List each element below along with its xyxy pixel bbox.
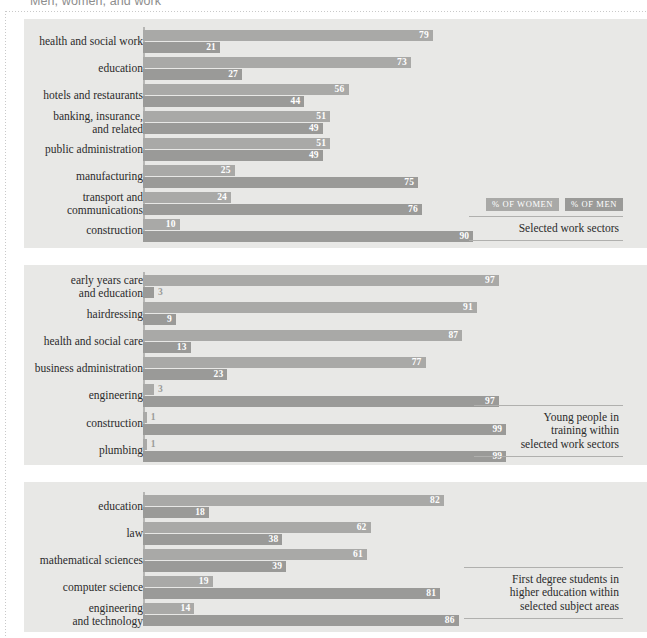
chart-category-label: transport and communications xyxy=(0,191,143,216)
chart-bar-men: 44 xyxy=(143,96,304,107)
chart-bar-value: 38 xyxy=(269,533,279,545)
chart-bar-value: 24 xyxy=(217,191,227,203)
chart-bar-women: 24 xyxy=(143,192,231,203)
chart-bar-women: 1 xyxy=(143,439,147,450)
chart-bar-men: 39 xyxy=(143,561,286,572)
chart-category-label: hairdressing xyxy=(0,308,143,321)
chart-bar-women: 10 xyxy=(143,219,180,230)
chart-category-label: education xyxy=(0,500,143,513)
chart-bar-value: 51 xyxy=(316,110,326,122)
chart-row: health and social work7921 xyxy=(24,30,647,53)
page-title: Men, women, and work xyxy=(30,0,161,8)
chart-category-label: health and social care xyxy=(0,335,143,348)
chart-bar-men: 86 xyxy=(143,615,459,626)
chart-bar-men: 3 xyxy=(143,287,154,298)
chart-bar-value: 61 xyxy=(353,548,363,560)
chart-bar-value: 44 xyxy=(291,95,301,107)
chart-bar-value: 62 xyxy=(357,521,367,533)
chart-bar-women: 62 xyxy=(143,522,371,533)
chart-bar-men: 99 xyxy=(143,424,506,435)
chart-plot-area-0: health and social work7921education7327h… xyxy=(24,19,647,248)
chart-bar-men: 18 xyxy=(143,507,209,518)
chart-bar-women: 1 xyxy=(143,412,147,423)
chart-bar-value: 91 xyxy=(463,301,473,313)
chart-row: hotels and restaurants5644 xyxy=(24,84,647,107)
chart-bar-men: 38 xyxy=(143,534,282,545)
chart-row: business administration7723 xyxy=(24,357,647,380)
chart-bar-women: 56 xyxy=(143,84,349,95)
chart-bar-men: 9 xyxy=(143,314,176,325)
chart-bar-value: 90 xyxy=(459,230,469,242)
chart-category-label: education xyxy=(0,62,143,75)
chart-bar-value: 51 xyxy=(316,137,326,149)
chart-caption: First degree students in higher educatio… xyxy=(464,567,623,620)
chart-bar-value: 21 xyxy=(206,41,216,53)
chart-bar-value: 77 xyxy=(412,356,422,368)
chart-bar-men: 97 xyxy=(143,396,499,407)
chart-bar-value: 49 xyxy=(309,149,319,161)
chart-panel-first-degree-students: education8218law6238mathematical science… xyxy=(24,482,647,632)
chart-bar-women: 19 xyxy=(143,576,213,587)
chart-bar-men: 27 xyxy=(143,69,242,80)
page-left-dotted-rule xyxy=(5,11,6,638)
chart-bar-men: 75 xyxy=(143,177,418,188)
legend-chip-men: % OF MEN xyxy=(565,198,623,211)
chart-bar-men: 49 xyxy=(143,150,323,161)
chart-bar-women: 61 xyxy=(143,549,367,560)
chart-bar-value: 27 xyxy=(228,68,238,80)
chart-bar-value: 39 xyxy=(272,560,282,572)
chart-bar-women: 87 xyxy=(143,330,462,341)
chart-bar-value: 10 xyxy=(166,218,176,230)
chart-bar-value: 86 xyxy=(445,614,455,626)
chart-bar-women: 79 xyxy=(143,30,433,41)
chart-bar-value: 87 xyxy=(448,329,458,341)
chart-legend: % OF WOMEN% OF MEN xyxy=(486,198,623,211)
chart-bar-value: 1 xyxy=(151,411,156,423)
chart-bar-men: 21 xyxy=(143,42,220,53)
chart-row: health and social care8713 xyxy=(24,330,647,353)
chart-plot-area-1: early years care and education973hairdre… xyxy=(24,265,647,465)
chart-category-label: engineering xyxy=(0,389,143,402)
chart-bar-value: 49 xyxy=(309,122,319,134)
chart-bar-value: 23 xyxy=(214,368,224,380)
chart-bar-men: 13 xyxy=(143,342,191,353)
chart-bar-value: 82 xyxy=(430,494,440,506)
chart-category-label: public administration xyxy=(0,143,143,156)
page-top-dotted-rule xyxy=(6,11,647,12)
chart-bar-value: 81 xyxy=(426,587,436,599)
chart-bar-value: 25 xyxy=(221,164,231,176)
chart-row: early years care and education973 xyxy=(24,275,647,298)
chart-bar-value: 9 xyxy=(167,313,172,325)
chart-bar-men: 81 xyxy=(143,588,440,599)
chart-panel-young-people-in-training: early years care and education973hairdre… xyxy=(24,265,647,465)
chart-category-label: hotels and restaurants xyxy=(0,89,143,102)
chart-row: banking, insurance, and related5149 xyxy=(24,111,647,134)
legend-chip-women: % OF WOMEN xyxy=(486,198,559,211)
chart-category-label: health and social work xyxy=(0,35,143,48)
chart-plot-area-2: education8218law6238mathematical science… xyxy=(24,482,647,632)
chart-category-label: computer science xyxy=(0,581,143,594)
chart-category-label: mathematical sciences xyxy=(0,554,143,567)
chart-bar-men: 76 xyxy=(143,204,422,215)
chart-category-label: business administration xyxy=(0,362,143,375)
chart-bar-men: 99 xyxy=(143,451,506,462)
chart-bar-women: 51 xyxy=(143,138,330,149)
chart-bar-value: 56 xyxy=(335,83,345,95)
chart-category-label: construction xyxy=(0,224,143,237)
chart-bar-value: 18 xyxy=(195,506,205,518)
chart-bar-women: 25 xyxy=(143,165,235,176)
chart-bar-men: 23 xyxy=(143,369,227,380)
chart-bar-men: 90 xyxy=(143,231,473,242)
chart-caption: Selected work sectors xyxy=(469,216,623,242)
chart-bar-women: 91 xyxy=(143,302,477,313)
chart-category-label: construction xyxy=(0,417,143,430)
chart-bar-women: 82 xyxy=(143,495,444,506)
chart-bar-value: 1 xyxy=(151,438,156,450)
chart-bar-women: 14 xyxy=(143,603,194,614)
chart-row: law6238 xyxy=(24,522,647,545)
chart-bar-women: 73 xyxy=(143,57,411,68)
chart-bar-value: 13 xyxy=(177,341,187,353)
chart-row: education8218 xyxy=(24,495,647,518)
chart-bar-women: 97 xyxy=(143,275,499,286)
chart-caption: Young people in training within selected… xyxy=(474,405,623,458)
